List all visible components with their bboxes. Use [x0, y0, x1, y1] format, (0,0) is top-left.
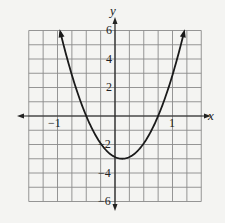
parabola-curve	[60, 32, 184, 158]
x-axis	[17, 114, 211, 119]
y-tick-6: 6	[106, 23, 112, 37]
y-tick-neg4: −4	[98, 166, 111, 180]
y-axis-up-arrow-icon	[113, 17, 118, 24]
x-axis-label: x	[207, 108, 214, 123]
x-tick-neg1: −1	[48, 116, 61, 130]
x-axis-left-arrow-icon	[17, 114, 24, 119]
y-tick-neg6: −6	[98, 194, 111, 208]
y-tick-neg2: −2	[98, 137, 111, 151]
graph: y x −1 1 6 4 2 −2 −4 −6	[0, 0, 225, 223]
y-tick-2: 2	[106, 80, 112, 94]
y-axis-down-arrow-icon	[113, 204, 118, 211]
y-axis-label: y	[108, 3, 116, 18]
y-axis	[113, 17, 118, 211]
y-tick-4: 4	[106, 52, 112, 66]
x-tick-1: 1	[169, 116, 175, 130]
